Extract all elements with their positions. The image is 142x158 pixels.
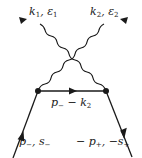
s-subscript: + — [124, 141, 130, 149]
k1-symbol: k — [29, 5, 36, 18]
p-symbol: p — [89, 135, 96, 148]
separator: , — [32, 135, 39, 148]
photon-k1-arrow-icon — [19, 17, 27, 24]
minus-sign: − — [64, 96, 80, 109]
k-subscript: 2 — [87, 102, 91, 110]
photon-k1-label: k1, ε1 — [29, 6, 58, 21]
left-vertex-dot — [35, 88, 41, 94]
photon-k2-arrow-icon — [120, 17, 128, 24]
minus-sign: − — [76, 135, 89, 148]
arrow-right-icon — [69, 88, 77, 95]
propagator-label: p− − k2 — [51, 97, 91, 112]
epsilon1-subscript: 1 — [53, 11, 57, 19]
s-subscript: − — [45, 141, 51, 149]
k2-symbol: k — [90, 5, 97, 18]
right-vertex-dot — [103, 88, 109, 94]
p-symbol: p — [19, 135, 26, 148]
positron-label: − p+, −s+ — [76, 136, 129, 151]
epsilon2-subscript: 2 — [114, 11, 118, 19]
electron-label: p−, s− — [19, 136, 50, 151]
separator: , − — [102, 135, 118, 148]
k-symbol: k — [80, 96, 87, 109]
photon-k2-label: k2, ε2 — [90, 6, 119, 21]
p-symbol: p — [51, 96, 58, 109]
